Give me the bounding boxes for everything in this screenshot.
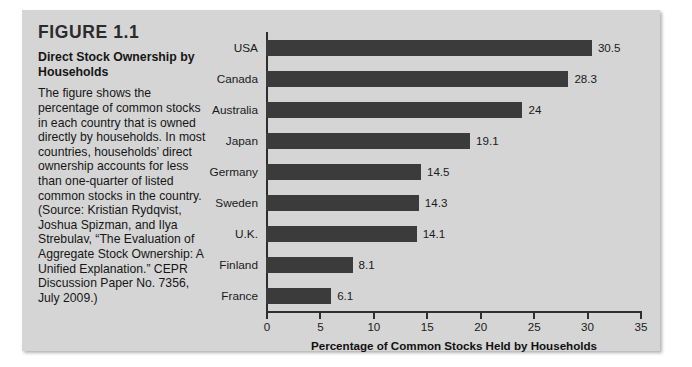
category-label: Sweden xyxy=(138,195,258,211)
x-axis-tick-label: 15 xyxy=(412,320,442,333)
bar xyxy=(266,133,470,149)
bar-row: 8.1 xyxy=(266,257,680,273)
bar-value-label: 8.1 xyxy=(359,257,375,273)
x-axis-tick xyxy=(266,313,268,319)
bar xyxy=(266,288,331,304)
figure-root: FIGURE 1.1 Direct Stock Ownership by Hou… xyxy=(0,0,692,367)
bar-row: 30.5 xyxy=(266,40,680,56)
x-axis-tick-label: 10 xyxy=(359,320,389,333)
bar xyxy=(266,257,353,273)
x-axis-tick xyxy=(533,313,535,319)
x-axis-tick-label: 35 xyxy=(626,320,656,333)
category-label: Finland xyxy=(138,257,258,273)
bar-value-label: 14.1 xyxy=(423,226,446,242)
x-axis-tick-label: 5 xyxy=(305,320,335,333)
bar xyxy=(266,164,421,180)
bar-value-label: 30.5 xyxy=(598,40,621,56)
bar-row: 24 xyxy=(266,102,680,118)
x-axis-tick xyxy=(587,313,589,319)
bar xyxy=(266,226,417,242)
bar-value-label: 24 xyxy=(528,102,541,118)
category-label: USA xyxy=(138,40,258,56)
bar-value-label: 14.5 xyxy=(427,164,450,180)
bar xyxy=(266,71,568,87)
bar-value-label: 14.3 xyxy=(425,195,448,211)
category-label: Japan xyxy=(138,133,258,149)
x-axis-tick xyxy=(373,313,375,319)
x-axis-tick-label: 25 xyxy=(519,320,549,333)
bar-row: 14.5 xyxy=(266,164,680,180)
category-label: France xyxy=(138,288,258,304)
x-axis-tick xyxy=(640,313,642,319)
bar xyxy=(266,195,419,211)
bar xyxy=(266,40,592,56)
figure-panel: FIGURE 1.1 Direct Stock Ownership by Hou… xyxy=(22,10,660,351)
bar-row: 14.3 xyxy=(266,195,680,211)
x-axis-tick-label: 0 xyxy=(252,320,282,333)
bar xyxy=(266,102,522,118)
x-axis-tick-label: 20 xyxy=(466,320,496,333)
category-label: Canada xyxy=(138,71,258,87)
x-axis-tick xyxy=(426,313,428,319)
bar-row: 28.3 xyxy=(266,71,680,87)
category-label: U.K. xyxy=(138,226,258,242)
bar-row: 14.1 xyxy=(266,226,680,242)
x-axis-tick xyxy=(319,313,321,319)
bar-value-label: 6.1 xyxy=(337,288,353,304)
bar-value-label: 28.3 xyxy=(574,71,597,87)
bar-value-label: 19.1 xyxy=(476,133,499,149)
bar-row: 19.1 xyxy=(266,133,680,149)
x-axis-title: Percentage of Common Stocks Held by Hous… xyxy=(266,339,642,352)
bar-chart: 30.528.32419.114.514.314.18.16.1 USACana… xyxy=(22,10,660,351)
x-axis-tick-label: 30 xyxy=(573,320,603,333)
bar-row: 6.1 xyxy=(266,288,680,304)
category-label: Germany xyxy=(138,164,258,180)
category-label: Australia xyxy=(138,102,258,118)
x-axis-tick xyxy=(480,313,482,319)
